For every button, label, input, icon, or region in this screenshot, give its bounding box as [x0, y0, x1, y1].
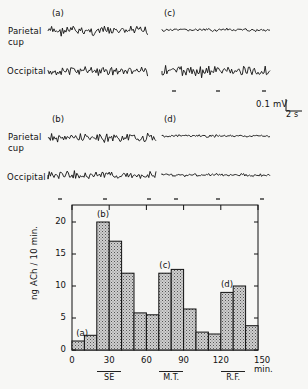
bar-110-120 [208, 334, 220, 350]
condition-rf: R.F. [221, 371, 245, 382]
annotation-c: (c) [159, 261, 170, 270]
annotation-d: (d) [221, 280, 233, 289]
bar-30-40 [109, 241, 121, 350]
y-axis-label: ng ACh / 10 min. [30, 226, 39, 300]
bar-0-10 [72, 341, 84, 350]
x-tick-0: 0 [69, 356, 74, 365]
x-tick-1: 30 [104, 356, 115, 365]
bar-90-100 [184, 309, 196, 350]
y-tick-0: 0 [46, 345, 66, 354]
bar-80-90 [171, 269, 183, 350]
bar-60-70 [146, 315, 158, 350]
bar-20-30 [97, 222, 109, 350]
bar-50-60 [134, 313, 146, 350]
y-tick-5: 5 [46, 313, 66, 322]
x-tick-2: 60 [141, 356, 152, 365]
y-tick-20: 20 [46, 217, 66, 226]
x-tick-5: 150 min. [254, 356, 290, 373]
annotation-b: (b) [97, 210, 109, 219]
bar-130-140 [233, 286, 245, 350]
x-tick-3: 90 [178, 356, 189, 365]
y-tick-10: 10 [46, 281, 66, 290]
condition-se: SE [97, 371, 121, 382]
ach-histogram [0, 0, 308, 389]
bar-70-80 [159, 273, 171, 350]
annotation-a: (a) [76, 329, 88, 338]
bar-100-110 [196, 332, 208, 350]
bar-120-130 [221, 292, 233, 350]
condition-mt: M.T. [159, 371, 183, 382]
bar-140-150 [246, 326, 258, 350]
x-tick-4: 120 [213, 356, 229, 365]
y-tick-15: 15 [46, 249, 66, 258]
bar-40-50 [122, 273, 134, 350]
